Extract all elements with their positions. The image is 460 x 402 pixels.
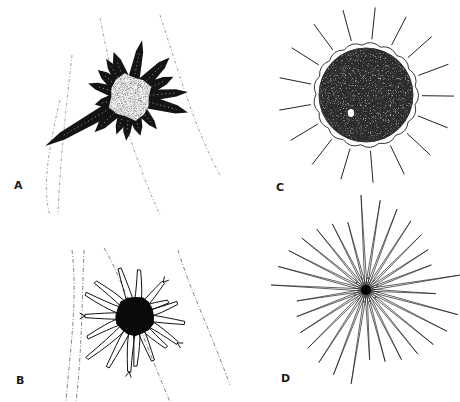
radial-spine [312, 139, 332, 164]
panel-c [279, 7, 454, 182]
process-outline [152, 301, 178, 315]
spine-web [361, 143, 379, 147]
radial-needle [365, 289, 418, 354]
radial-needle [366, 289, 447, 331]
boundary-line [178, 250, 230, 385]
radial-needle [366, 265, 432, 291]
panel-label-c: C [276, 182, 284, 193]
granule [369, 300, 371, 302]
process-outline [85, 313, 117, 319]
granule [376, 285, 378, 287]
radial-needle [317, 229, 367, 291]
granule [374, 297, 376, 299]
panel-label-b: B [16, 375, 24, 386]
radial-needle [289, 251, 367, 291]
radial-spine [341, 149, 350, 180]
panel-b [66, 248, 230, 402]
radial-spine [418, 64, 448, 75]
granule [357, 298, 359, 300]
nucleus [348, 109, 354, 117]
radial-needle [297, 289, 367, 317]
granule [354, 293, 356, 295]
radial-spine [314, 24, 333, 50]
radial-spine [292, 48, 319, 65]
spine-web [362, 43, 380, 47]
cell-body [115, 297, 154, 336]
radial-spine [390, 145, 404, 174]
cell-morphology-figure [0, 0, 460, 402]
spine-web [415, 86, 419, 104]
radial-spine [372, 7, 375, 39]
granule [356, 281, 358, 283]
radial-spine [418, 116, 448, 128]
process-outline [135, 270, 142, 299]
granule [361, 278, 363, 280]
process-outline [118, 268, 132, 300]
granule [373, 280, 375, 282]
radial-spine [343, 10, 351, 41]
panel-label-d: D [281, 373, 290, 384]
process-fork [80, 313, 85, 319]
process-fork [125, 372, 131, 378]
boundary-line [46, 100, 60, 215]
radial-needle [365, 290, 385, 362]
radial-spine [291, 124, 318, 141]
granule [363, 301, 365, 303]
process-outline [85, 292, 119, 313]
process-outline [94, 281, 124, 306]
process-fork [163, 276, 169, 282]
granule [353, 287, 355, 289]
process-outline [139, 331, 155, 361]
radial-spine [392, 17, 407, 45]
radial-needle [365, 209, 397, 290]
granule [377, 291, 379, 293]
radial-needle [333, 290, 367, 375]
radial-spine [370, 151, 373, 183]
spine-web [314, 94, 319, 112]
panel-label-a: A [14, 180, 23, 191]
panel-d [271, 195, 460, 384]
radial-spine [408, 37, 432, 58]
radial-spine [407, 133, 430, 155]
cell-core [361, 285, 371, 295]
process-fork [177, 343, 183, 348]
process-outline [152, 315, 184, 324]
process-outline [87, 319, 119, 339]
boundary-line [76, 250, 84, 402]
panel-a [45, 15, 220, 215]
radial-spine [279, 105, 311, 110]
granule [367, 277, 369, 279]
radial-spine [280, 78, 311, 84]
boundary-line [66, 250, 74, 402]
radial-needle [271, 285, 366, 291]
radial-needle [361, 195, 367, 290]
